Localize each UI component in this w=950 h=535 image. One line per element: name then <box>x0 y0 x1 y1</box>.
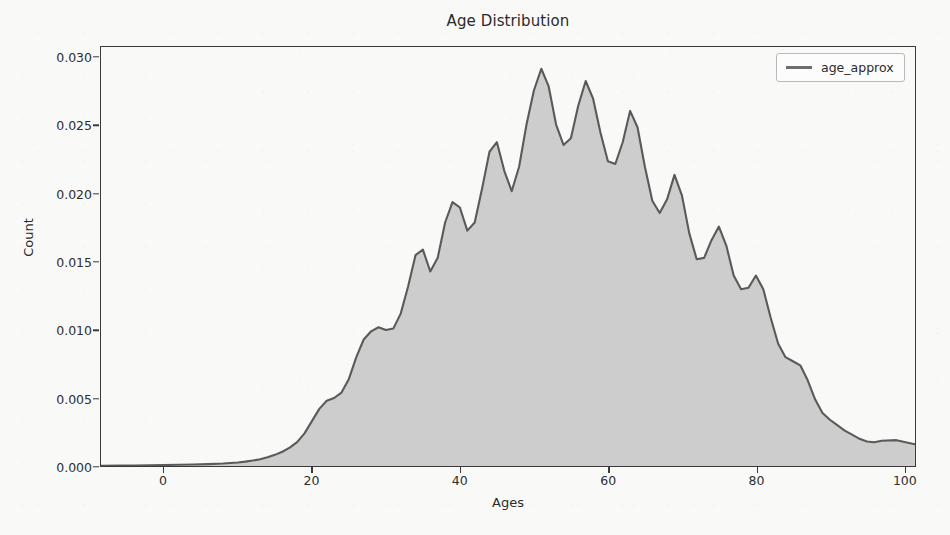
x-axis-title: Ages <box>100 495 916 510</box>
x-tick-mark <box>460 467 461 473</box>
x-tick-label: 0 <box>133 473 193 488</box>
y-tick-label: 0.005 <box>28 391 92 406</box>
y-tick-mark <box>93 466 99 467</box>
y-tick-label: 0.025 <box>28 118 92 133</box>
x-tick-mark <box>608 467 609 473</box>
kde-plot-svg <box>101 47 915 466</box>
legend-line-icon <box>786 66 812 68</box>
x-tick-mark <box>311 467 312 473</box>
y-tick-label: 0.010 <box>28 323 92 338</box>
x-tick-label: 100 <box>875 473 935 488</box>
y-tick-mark <box>93 193 99 194</box>
x-tick-label: 40 <box>430 473 490 488</box>
x-tick-label: 20 <box>281 473 341 488</box>
x-tick-mark <box>757 467 758 473</box>
y-tick-mark <box>93 56 99 57</box>
y-tick-mark <box>93 330 99 331</box>
y-tick-mark <box>93 125 99 126</box>
matplotlib-figure: Age Distribution 0.0000.0050.0100.0150.0… <box>0 0 950 535</box>
legend-entry-label: age_approx <box>821 60 894 75</box>
x-tick-label: 60 <box>578 473 638 488</box>
kde-area-fill <box>101 69 915 466</box>
x-tick-label: 80 <box>727 473 787 488</box>
y-tick-mark <box>93 261 99 262</box>
page-title: Age Distribution <box>100 12 916 30</box>
y-tick-label: 0.000 <box>28 460 92 475</box>
y-tick-label: 0.020 <box>28 186 92 201</box>
chart-legend[interactable]: age_approx <box>776 53 905 82</box>
y-tick-label: 0.015 <box>28 254 92 269</box>
y-tick-mark <box>93 398 99 399</box>
y-tick-label: 0.030 <box>28 49 92 64</box>
chart-screenshot: Age Distribution 0.0000.0050.0100.0150.0… <box>0 0 950 535</box>
plot-area <box>100 46 916 467</box>
y-axis-title: Count <box>21 188 36 288</box>
x-tick-mark <box>163 467 164 473</box>
x-tick-mark <box>905 467 906 473</box>
